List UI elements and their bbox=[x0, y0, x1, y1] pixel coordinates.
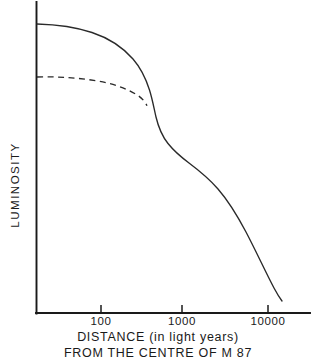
normal-galaxy-profile-curve bbox=[37, 77, 147, 106]
observed-luminosity-profile-curve bbox=[37, 24, 282, 301]
x-tick-label-1000: 1000 bbox=[168, 315, 196, 327]
plot-area bbox=[0, 0, 316, 362]
x-axis-caption-primary: DISTANCE (in light years) bbox=[0, 330, 316, 344]
luminosity-distance-chart: 100 1000 10000 LUMINOSITY DISTANCE (in l… bbox=[0, 0, 316, 362]
x-tick-label-100: 100 bbox=[91, 315, 112, 327]
x-tick-label-10000: 10000 bbox=[251, 315, 286, 327]
y-axis-title: LUMINOSITY bbox=[9, 142, 21, 227]
x-axis-caption-secondary: FROM THE CENTRE OF M 87 bbox=[0, 346, 316, 360]
